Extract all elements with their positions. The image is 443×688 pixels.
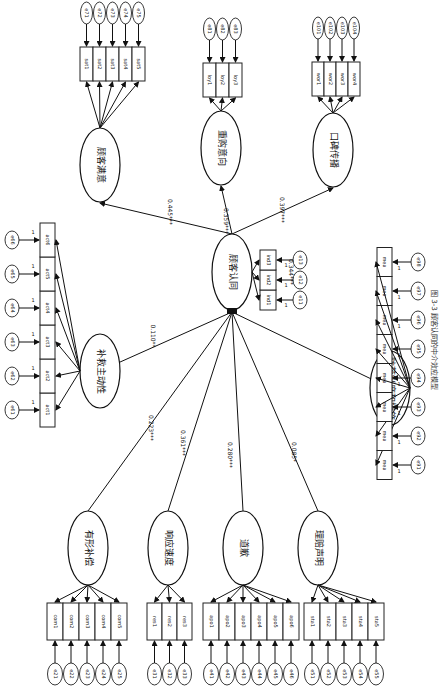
indicator-label: com5 [117,615,123,629]
latent-label: 重购意向 [217,130,228,166]
loading-arrow [221,98,236,111]
indicator-label: sat3 [110,59,116,70]
error-label: e98 [416,257,422,266]
error-label: e22 [69,669,75,678]
indicator-label: act2 [45,371,51,382]
error-label: e102 [328,22,334,35]
indicator-label: ind1 [266,295,272,306]
loading-arrow [210,98,222,111]
fixed-loading: 1 [397,294,400,300]
fixed-loading: 1 [31,263,34,269]
indicator-label: mea [382,430,388,441]
indicator-label: sta4 [358,616,364,627]
fixed-loading: 1 [31,365,34,371]
coefficient: 0.110** [150,324,157,347]
error-label: e101 [316,22,322,35]
error-label: e63 [10,337,16,346]
indicator-label: apo1 [208,615,215,627]
indicator-label: sta1 [310,616,316,627]
error-label: e65 [10,269,16,278]
error-label: e31 [152,669,158,678]
indicator-label: sat4 [123,59,129,70]
indicator-label: loy2 [219,75,226,86]
indicator-label: sat5 [136,59,142,70]
error-label: e43 [241,669,247,678]
loading-arrow [88,585,119,602]
indicator-label: mea [382,343,388,354]
latent-label: 顾客认同 [228,254,239,290]
error-label: e74 [123,8,129,17]
indicator-label: apo2 [224,615,231,627]
fixed-loading: 1 [397,381,400,387]
loading-arrow [56,240,80,371]
error-label: e96 [416,315,422,324]
error-label: e75 [136,8,142,17]
indicator-label: sta5 [374,616,380,627]
fixed-loading: 1 [397,468,400,474]
coefficient: 0.085* [291,442,298,462]
indicator-label: wor1 [316,73,322,85]
latent-label: 理赔声明 [314,530,325,566]
error-label: e21 [53,669,59,678]
indicator-label: com2 [69,615,75,629]
loading-arrow [243,585,291,602]
latent-label: 响应速度 [164,530,175,566]
indicator-label: mea [382,372,388,383]
error-label: e54 [358,669,364,678]
indicator-label: sta2 [326,616,332,627]
fixed-loading: 1 [284,282,287,288]
fixed-loading: 1 [284,262,287,268]
fixed-loading: 1 [31,229,34,235]
fixed-loading: 1 [31,399,34,405]
loading-arrow [318,585,360,602]
structural-path [232,312,243,511]
error-label: e42 [225,669,231,678]
fixed-loading: 1 [284,302,287,308]
indicator-label: loy3 [232,75,239,86]
error-label: e62 [10,371,16,380]
error-label: e103 [340,22,346,35]
loading-arrow [88,585,103,602]
coefficient: 0.359*** [223,208,230,234]
indicator-label: apo5 [272,615,279,627]
fixed-loading: 1 [397,439,400,445]
structural-path [232,312,318,511]
error-label: e12 [298,275,304,284]
indicator-label: res1 [152,616,158,627]
error-label: e83 [233,24,239,33]
indicator-label: apo4 [256,615,263,627]
error-label: e32 [167,669,173,678]
loading-arrow [333,97,354,113]
structural-path [168,312,232,511]
error-label: e51 [310,669,316,678]
indicator-label: sat2 [97,59,103,70]
indicator-label: act3 [45,337,51,348]
loading-arrow [55,585,88,602]
loading-arrow [252,260,259,272]
fixed-loading: 1 [397,323,400,329]
loading-arrow [56,371,80,376]
indicator-label: wor3 [340,73,346,85]
error-label: e72 [97,8,103,17]
loading-arrow [333,97,342,113]
loading-arrow [56,308,80,371]
coefficient: 0.445*** [167,199,174,225]
error-label: e61 [10,405,16,414]
fixed-loading: 1 [397,265,400,271]
coefficient: 0.361*** [180,430,187,456]
loading-arrow [100,82,126,128]
error-label: e46 [289,669,295,678]
coefficient: 0.344*** [288,259,295,285]
loading-arrow [87,82,101,128]
structural-path [100,203,232,234]
indicator-label: com3 [85,615,91,629]
indicator-label: wor2 [328,73,334,85]
coefficient: 0.280*** [227,442,234,468]
indicator-label: act6 [45,235,51,246]
loading-arrow [221,98,223,111]
loading-arrow [56,371,80,410]
latent-label: 补救主动性 [96,349,107,394]
indicator-label: ind2 [266,275,272,286]
error-label: e53 [342,669,348,678]
indicator-label: wor4 [352,73,358,85]
